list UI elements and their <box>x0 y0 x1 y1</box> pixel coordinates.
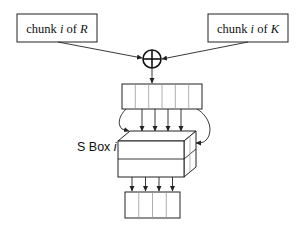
sbox-diagram: chunk i of R chunk i of K <box>0 0 304 232</box>
input-register <box>122 84 202 109</box>
arrow-k-to-xor <box>162 42 248 59</box>
sbox-cube <box>118 131 196 177</box>
sbox-to-output-arrows <box>132 177 173 191</box>
output-register <box>125 192 180 218</box>
xor-icon <box>143 50 161 68</box>
input-box-r: chunk i of R <box>17 14 97 42</box>
sbox-label: S Box i <box>77 140 118 154</box>
arrow-r-to-xor <box>58 42 142 58</box>
input-box-r-label: chunk i of R <box>26 22 88 36</box>
input-box-k-label: chunk i of K <box>217 22 280 36</box>
input-box-k: chunk i of K <box>208 14 288 42</box>
